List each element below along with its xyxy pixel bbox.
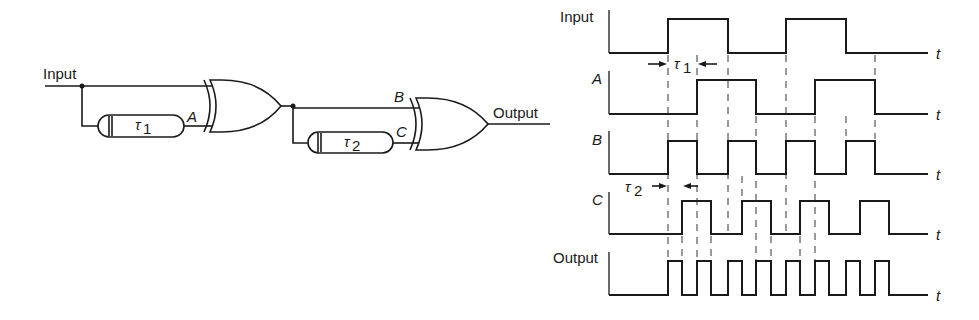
- node-b-label: B: [394, 88, 404, 105]
- svg-text:t: t: [936, 226, 941, 243]
- input-label: Input: [43, 65, 77, 82]
- svg-text:t: t: [936, 106, 941, 123]
- trace-c: C t: [592, 191, 941, 243]
- xor-gate-1: [204, 80, 281, 132]
- svg-text:C: C: [592, 191, 603, 208]
- svg-text:2: 2: [352, 137, 360, 154]
- node-c-label: C: [396, 123, 407, 140]
- svg-text:t: t: [936, 287, 941, 304]
- svg-text:τ: τ: [135, 116, 142, 133]
- svg-text:2: 2: [634, 182, 642, 199]
- delay2-feed-wire: [293, 106, 308, 143]
- svg-text:t: t: [936, 166, 941, 183]
- tau1-annotation: τ 1: [648, 55, 717, 76]
- svg-text:τ: τ: [344, 133, 351, 150]
- svg-text:Output: Output: [553, 249, 599, 266]
- svg-text:τ: τ: [674, 55, 681, 72]
- timing-diagram: Input t τ 1 A t B t: [553, 8, 941, 304]
- svg-text:1: 1: [683, 59, 691, 76]
- svg-text:B: B: [592, 131, 602, 148]
- delay1-feed-wire: [82, 86, 98, 126]
- svg-text:A: A: [591, 70, 602, 87]
- circuit-diagram: Input τ 1 A τ 2: [43, 65, 550, 154]
- delay-element-tau1: τ 1: [98, 115, 184, 137]
- svg-text:τ: τ: [625, 178, 632, 195]
- trace-input: Input t: [560, 8, 941, 62]
- svg-text:1: 1: [143, 120, 151, 137]
- xor-doubler-figure: Input τ 1 A τ 2: [0, 0, 979, 320]
- output-label: Output: [493, 104, 539, 121]
- svg-text:Input: Input: [560, 8, 594, 25]
- delay-element-tau2: τ 2: [308, 132, 393, 154]
- trace-output: Output t: [553, 249, 941, 304]
- node-a-label: A: [186, 108, 197, 125]
- xor-gate-2: [410, 98, 488, 150]
- svg-text:t: t: [936, 45, 941, 62]
- tau2-annotation: τ 2: [625, 178, 698, 199]
- trace-b: B t: [592, 131, 941, 183]
- trace-a: A t: [591, 70, 941, 123]
